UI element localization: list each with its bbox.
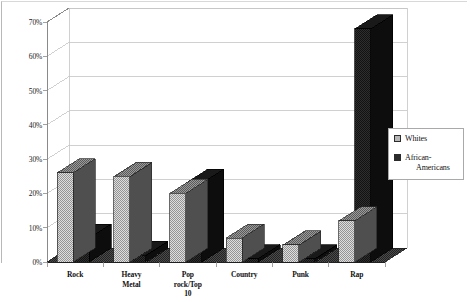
legend-label-african-americans-line1: African- <box>405 153 431 162</box>
x-axis-label-rock: Rock <box>67 270 83 280</box>
legend-label-african-americans-wrap: African- Americans <box>405 153 450 173</box>
legend-label-african-americans-line2: Americans <box>405 163 450 173</box>
x-axis-label-punk: Punk <box>292 270 309 280</box>
x-axis-label-heavy-metal: Heavy Metal <box>122 270 142 289</box>
chart-container: 0%10%20%30%40%50%60%70% RockHeavy MetalP… <box>0 0 470 302</box>
x-axis-label-pop-rock-top-10: Pop rock/Top 10 <box>174 270 202 299</box>
legend-item-whites: Whites <box>394 134 459 144</box>
legend-swatch-icon-african-americans <box>394 154 401 161</box>
legend-swatch-icon-whites <box>394 135 401 142</box>
x-axis-label-rap: Rap <box>350 270 363 280</box>
legend-item-african-americans: African- Americans <box>394 153 459 173</box>
chart-legend: Whites African- Americans <box>388 128 464 180</box>
x-axis-label-country: Country <box>231 270 257 280</box>
legend-label-whites: Whites <box>405 134 427 144</box>
